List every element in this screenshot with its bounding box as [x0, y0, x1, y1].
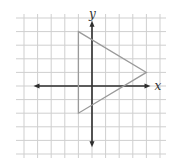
y-axis-label: y	[88, 7, 96, 21]
y-axis-arrow-up-icon	[90, 21, 95, 27]
x-axis-arrow-left-icon	[34, 84, 40, 89]
x-axis-arrow-right-icon	[144, 84, 150, 89]
x-axis-label: x	[154, 79, 161, 93]
y-axis-arrow-down-icon	[90, 141, 95, 147]
coordinate-plane: x y	[0, 0, 180, 161]
